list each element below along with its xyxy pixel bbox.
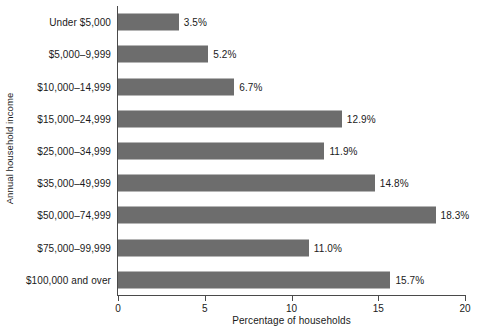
category-label: $35,000–49,999 [37, 178, 111, 189]
category-label: $50,000–74,999 [37, 210, 111, 221]
bar-row: $100,000 and over15.7% [118, 264, 465, 296]
bar-row: $25,000–34,99911.9% [118, 135, 465, 167]
category-label: $15,000–24,999 [37, 113, 111, 124]
bar [118, 207, 436, 224]
bar-value-label: 6.7% [239, 81, 262, 92]
bar-value-label: 12.9% [347, 113, 376, 124]
bar [118, 46, 208, 63]
bar [118, 271, 390, 288]
x-tick-label: 0 [115, 303, 121, 314]
plot-area: Under $5,0003.5%$5,000–9,9995.2%$10,000–… [118, 6, 465, 296]
x-tick [292, 296, 293, 301]
bar [118, 239, 309, 256]
bar-row: $10,000–14,9996.7% [118, 70, 465, 102]
bar-row: $35,000–49,99914.8% [118, 167, 465, 199]
bar-chart: Annual household income Under $5,0003.5%… [0, 0, 490, 329]
bar-row: $5,000–9,9995.2% [118, 38, 465, 70]
category-label: $10,000–14,999 [37, 81, 111, 92]
category-label: $25,000–34,999 [37, 145, 111, 156]
bar-row: Under $5,0003.5% [118, 6, 465, 38]
bar-value-label: 15.7% [395, 274, 424, 285]
bar [118, 14, 179, 31]
bar-value-label: 11.0% [314, 242, 342, 253]
x-axis-title: Percentage of households [118, 315, 465, 326]
bar [118, 175, 375, 192]
x-tick [465, 296, 466, 301]
x-tick [118, 296, 119, 301]
y-axis-title: Annual household income [2, 0, 18, 296]
x-tick-label: 15 [373, 303, 384, 314]
bar-value-label: 5.2% [213, 49, 236, 60]
x-tick [205, 296, 206, 301]
x-tick-label: 5 [202, 303, 208, 314]
bar [118, 142, 324, 159]
x-tick-label: 20 [459, 303, 470, 314]
bar-row: $50,000–74,99918.3% [118, 199, 465, 231]
x-tick-label: 10 [286, 303, 297, 314]
bar-value-label: 18.3% [441, 210, 470, 221]
bar-value-label: 11.9% [329, 145, 357, 156]
category-label: $75,000–99,999 [37, 242, 111, 253]
y-axis-title-text: Annual household income [5, 92, 16, 204]
bar-value-label: 3.5% [184, 17, 207, 28]
x-tick [378, 296, 379, 301]
bar-value-label: 14.8% [380, 178, 409, 189]
bar-row: $75,000–99,99911.0% [118, 232, 465, 264]
bar [118, 78, 234, 95]
category-label: $100,000 and over [26, 274, 111, 285]
category-label: Under $5,000 [49, 17, 111, 28]
category-label: $5,000–9,999 [49, 49, 111, 60]
bar [118, 110, 342, 127]
bar-row: $15,000–24,99912.9% [118, 103, 465, 135]
